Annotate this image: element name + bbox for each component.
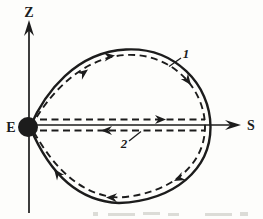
caption-remnant-mark (108, 213, 135, 216)
s-axis-label: S (247, 118, 255, 133)
orbit-trajectory-figure: Z S E 1 2 (0, 0, 263, 219)
z-axis-label: Z (24, 5, 33, 20)
callout-1-label: 1 (183, 46, 190, 61)
caption-remnant-mark (240, 212, 248, 216)
earth-label: E (6, 120, 15, 135)
callout-2-label: 2 (120, 136, 128, 151)
caption-remnant-mark (143, 212, 160, 215)
caption-remnant-mark (205, 213, 232, 216)
caption-remnant-mark (168, 213, 179, 216)
earth-dot (18, 117, 38, 137)
caption-remnant-mark (93, 212, 98, 216)
earth-point: E (6, 117, 38, 137)
